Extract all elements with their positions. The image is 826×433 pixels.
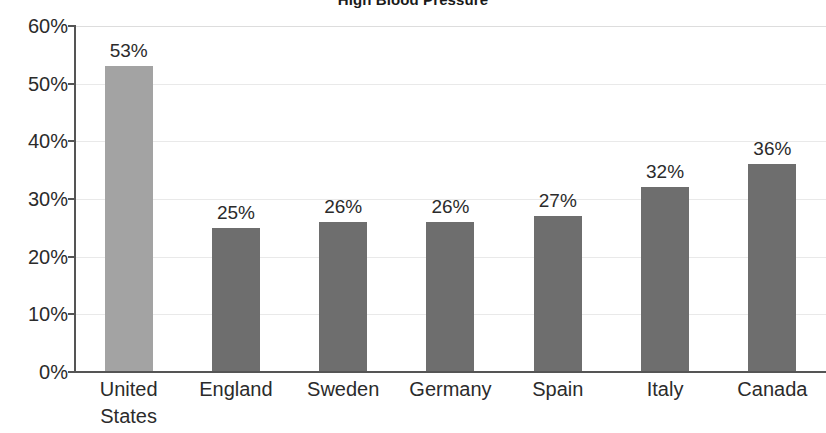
bar[interactable] bbox=[748, 164, 796, 372]
x-axis-tick-label-line: England bbox=[182, 376, 289, 403]
bar-value-label: 53% bbox=[110, 40, 148, 62]
x-axis-tick-label: Germany bbox=[397, 376, 504, 403]
y-axis-tick-label: 30% bbox=[6, 188, 68, 211]
bar-group: 36% bbox=[719, 26, 826, 372]
x-axis-tick-label-line: Spain bbox=[504, 376, 611, 403]
y-axis-tick-label: 50% bbox=[6, 72, 68, 95]
bar-group: 26% bbox=[290, 26, 397, 372]
bar[interactable] bbox=[105, 66, 153, 372]
y-axis-tick-label: 0% bbox=[6, 361, 68, 384]
y-axis-tick-label: 10% bbox=[6, 303, 68, 326]
x-axis-tick-label: Sweden bbox=[290, 376, 397, 403]
bar-value-label: 25% bbox=[217, 202, 255, 224]
x-axis-tick-label-line: Germany bbox=[397, 376, 504, 403]
bar[interactable] bbox=[534, 216, 582, 372]
bar-group: 32% bbox=[611, 26, 718, 372]
bar-value-label: 26% bbox=[324, 196, 362, 218]
bar-value-label: 26% bbox=[431, 196, 469, 218]
y-axis: 0%10%20%30%40%50%60% bbox=[0, 0, 68, 433]
x-axis-tick-label-line: Italy bbox=[611, 376, 718, 403]
plot-area: 53%25%26%26%27%32%36% bbox=[75, 26, 826, 372]
bar-value-label: 32% bbox=[646, 161, 684, 183]
bar[interactable] bbox=[426, 222, 474, 372]
x-axis-tick-label: England bbox=[182, 376, 289, 403]
y-axis-tick-label: 60% bbox=[6, 15, 68, 38]
x-axis-tick-label: Canada bbox=[719, 376, 826, 403]
y-axis-line bbox=[74, 26, 76, 373]
bar-group: 26% bbox=[397, 26, 504, 372]
x-axis-tick-label: Spain bbox=[504, 376, 611, 403]
x-axis-tick-label: UnitedStates bbox=[75, 376, 182, 430]
y-axis-tick-label: 40% bbox=[6, 130, 68, 153]
bar-group: 27% bbox=[504, 26, 611, 372]
bar[interactable] bbox=[641, 187, 689, 372]
x-axis-tick-label-line: Canada bbox=[719, 376, 826, 403]
bar[interactable] bbox=[212, 228, 260, 372]
bar[interactable] bbox=[319, 222, 367, 372]
bar-chart: High Blood Pressure 0%10%20%30%40%50%60%… bbox=[0, 0, 826, 433]
bar-group: 25% bbox=[182, 26, 289, 372]
x-axis-tick-label-line: Sweden bbox=[290, 376, 397, 403]
x-axis-line bbox=[75, 371, 826, 373]
bar-group: 53% bbox=[75, 26, 182, 372]
chart-title: High Blood Pressure bbox=[0, 0, 826, 8]
x-axis: UnitedStatesEnglandSwedenGermanySpainIta… bbox=[75, 376, 826, 433]
bar-value-label: 36% bbox=[753, 138, 791, 160]
x-axis-tick-label-line: United bbox=[75, 376, 182, 403]
bar-value-label: 27% bbox=[539, 190, 577, 212]
x-axis-tick-label: Italy bbox=[611, 376, 718, 403]
y-axis-tick-label: 20% bbox=[6, 245, 68, 268]
x-axis-tick-label-line: States bbox=[75, 403, 182, 430]
